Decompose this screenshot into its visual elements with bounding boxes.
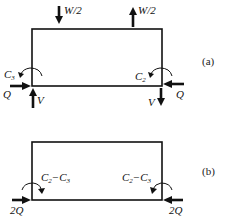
up-arrow-icon [129,7,137,27]
down-arrow-icon [157,88,165,106]
panel-a: W/2 W/2 C3 Q V C2 [3,4,215,108]
up-arrow-icon [29,88,37,108]
shear-label-left: 2Q [10,204,24,216]
moment-label-left: C3 [4,68,15,82]
load-label-left: W/2 [64,4,82,16]
moment-arrow-icon [148,68,172,78]
moment-label-right: C2 [135,70,146,84]
moment-label-right: C2−C3 [122,171,152,185]
left-arrow-icon [163,196,183,204]
down-arrow-icon [55,6,63,24]
panel-label-b: (b) [202,165,215,178]
moment-arrow-icon [18,68,42,78]
free-body-diagram: W/2 W/2 C3 Q V C2 [0,0,227,224]
shear-label-right: Q [176,88,184,100]
load-label-right: W/2 [138,4,156,16]
panel-b: C2−C3 2Q C2−C3 2Q (b) [10,142,215,216]
moment-arrow-icon [150,183,172,194]
vertical-label-left: V [37,94,45,106]
panel-label-a: (a) [202,55,215,68]
moment-arrow-icon [22,183,45,194]
left-arrow-icon [163,80,184,88]
right-arrow-icon [12,196,31,204]
moment-label-left: C2−C3 [41,171,71,185]
shear-label-left: Q [3,88,11,100]
vertical-label-right: V [148,96,156,108]
right-arrow-icon [10,82,31,90]
shear-label-right: 2Q [169,204,183,216]
